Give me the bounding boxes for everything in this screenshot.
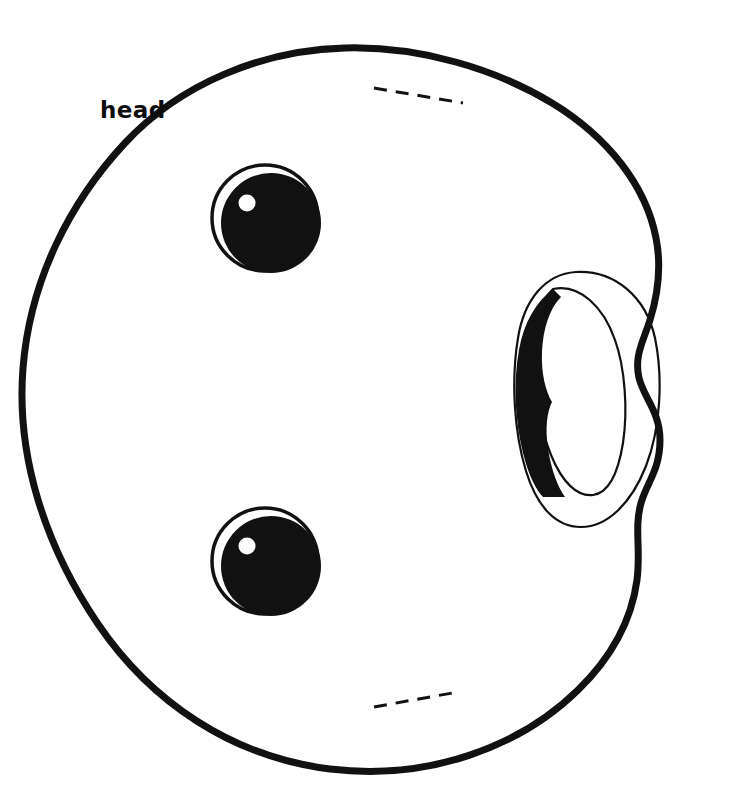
lower-eye-pupil	[221, 516, 321, 616]
upper-eye-group	[212, 165, 321, 273]
top-dashed-guide	[374, 88, 463, 103]
upper-eye-pupil	[221, 173, 321, 273]
lower-eye-group	[212, 508, 321, 616]
head-label: head	[100, 97, 166, 123]
upper-eye-highlight	[239, 195, 256, 212]
pattern-canvas: head	[0, 0, 740, 807]
head-outline-group	[22, 48, 660, 772]
head-pattern-drawing: head	[0, 0, 740, 807]
head-outline-path	[22, 48, 660, 772]
lower-eye-highlight	[239, 538, 256, 555]
dashed-guides-group	[374, 88, 463, 707]
ear-group	[514, 272, 659, 527]
bottom-dashed-guide	[374, 692, 458, 707]
